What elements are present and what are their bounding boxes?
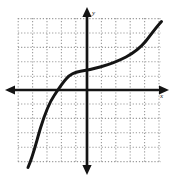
cubic-function-curve [28,22,162,168]
x-axis-arrow-left-icon [5,85,15,94]
coordinate-plane-figure: y x [0,0,173,179]
y-axis-label: y [91,9,96,17]
y-axis-arrow-top-icon [82,7,91,17]
y-axis-arrow-bottom-icon [82,165,91,175]
x-axis-label: x [159,92,164,100]
graph-canvas: y x [0,0,173,179]
